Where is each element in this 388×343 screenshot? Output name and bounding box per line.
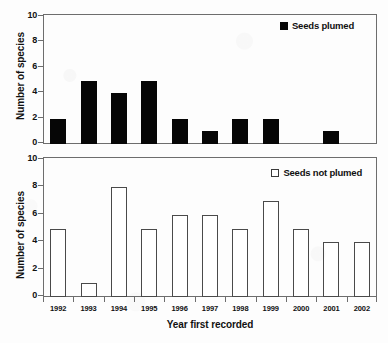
bar-cell-1996 — [164, 157, 194, 297]
chart-panel-seeds-plumed: Number of species 0246810 Seeds plumed — [0, 0, 388, 152]
x-tick-label-1996: 1996 — [171, 304, 187, 313]
bar-1998-value-2 — [232, 119, 248, 144]
y-tick-label-8: 8 — [32, 180, 37, 190]
x-tick-mark-11 — [376, 297, 377, 302]
bar-1996-value-2 — [172, 119, 188, 144]
bar-1998-value-5 — [232, 229, 248, 298]
x-tick-mark-0 — [43, 297, 44, 302]
x-tick-mark-5 — [195, 297, 196, 302]
y-tick-label-2: 2 — [32, 263, 37, 273]
bar-cell-2000 — [286, 14, 316, 144]
legend-seeds-plumed: Seeds plumed — [280, 20, 354, 31]
bar-cell-1993 — [73, 157, 103, 297]
bar-cell-1997 — [195, 157, 225, 297]
bar-cell-1998 — [225, 157, 255, 297]
y-tick-label-4: 4 — [32, 86, 37, 96]
bar-cell-1999 — [256, 157, 286, 297]
x-tick-label-1993: 1993 — [80, 304, 96, 313]
bar-1995-value-5 — [141, 81, 157, 145]
x-tick-label-1998: 1998 — [232, 304, 248, 313]
bar-1993-value-5 — [81, 81, 97, 145]
x-tick-mark-1 — [73, 297, 74, 302]
bar-cell-1999 — [256, 14, 286, 144]
y-tick-label-10: 10 — [27, 153, 37, 163]
bar-cell-1992 — [43, 14, 73, 144]
bar-cell-2000 — [286, 157, 316, 297]
bar-1992-value-5 — [50, 229, 66, 298]
legend-label-bottom: Seeds not plumed — [283, 167, 362, 178]
bar-1993-value-1 — [81, 283, 97, 297]
bar-1994-value-4 — [111, 93, 127, 144]
bar-group-bottom — [43, 157, 377, 297]
legend-swatch-filled-icon — [280, 22, 288, 30]
x-tick-mark-7 — [256, 297, 257, 302]
bar-cell-1997 — [195, 14, 225, 144]
y-tick-label-0: 0 — [32, 290, 37, 300]
bar-2001-value-1 — [323, 131, 339, 144]
bar-1992-value-2 — [50, 119, 66, 144]
legend-seeds-not-plumed: Seeds not plumed — [271, 167, 362, 178]
bar-cell-1994 — [104, 14, 134, 144]
y-tick-label-8: 8 — [32, 35, 37, 45]
bar-cell-1995 — [134, 14, 164, 144]
y-axis-title-top: Number of species — [15, 16, 26, 136]
bar-2001-value-4 — [323, 242, 339, 297]
x-axis-title: Year first recorded — [43, 319, 377, 330]
x-tick-mark-3 — [134, 297, 135, 302]
y-axis-top: Number of species 0246810 — [0, 0, 43, 152]
bar-1994-value-8 — [111, 187, 127, 297]
bar-1997-value-6 — [202, 215, 218, 297]
bar-1999-value-7 — [263, 201, 279, 297]
bar-cell-1992 — [43, 157, 73, 297]
bar-cell-2001 — [316, 14, 346, 144]
bar-cell-1995 — [134, 157, 164, 297]
bar-cell-1998 — [225, 14, 255, 144]
x-tick-mark-4 — [164, 297, 165, 302]
bar-cell-1996 — [164, 14, 194, 144]
x-tick-label-1992: 1992 — [50, 304, 66, 313]
y-tick-label-0: 0 — [32, 137, 37, 147]
x-tick-label-2001: 2001 — [323, 304, 339, 313]
bar-1999-value-2 — [263, 119, 279, 144]
y-tick-label-6: 6 — [32, 61, 37, 71]
bar-cell-2002 — [347, 157, 377, 297]
legend-swatch-hollow-icon — [271, 169, 279, 177]
bar-2000-value-5 — [293, 229, 309, 298]
x-tick-mark-8 — [286, 297, 287, 302]
x-tick-mark-6 — [225, 297, 226, 302]
bar-cell-2002 — [347, 14, 377, 144]
x-tick-label-2000: 2000 — [293, 304, 309, 313]
bar-cell-2001 — [316, 157, 346, 297]
y-tick-label-6: 6 — [32, 208, 37, 218]
x-tick-label-1994: 1994 — [111, 304, 127, 313]
y-axis-title-bottom: Number of species — [15, 175, 26, 295]
bar-1997-value-1 — [202, 131, 218, 144]
bar-cell-1994 — [104, 157, 134, 297]
y-tick-label-4: 4 — [32, 235, 37, 245]
x-tick-mark-2 — [104, 297, 105, 302]
y-axis-bottom: Number of species 0246810 — [0, 155, 43, 315]
x-tick-label-1999: 1999 — [263, 304, 279, 313]
bar-group-top — [43, 14, 377, 144]
chart-panel-seeds-not-plumed: Number of species 0246810 Seeds not plum… — [0, 155, 388, 315]
x-tick-label-1995: 1995 — [141, 304, 157, 313]
y-tick-label-2: 2 — [32, 112, 37, 122]
bar-2002-value-4 — [354, 242, 370, 297]
x-tick-label-2002: 2002 — [354, 304, 370, 313]
x-tick-mark-9 — [316, 297, 317, 302]
bar-1995-value-5 — [141, 229, 157, 298]
x-tick-label-1997: 1997 — [202, 304, 218, 313]
bar-cell-1993 — [73, 14, 103, 144]
y-tick-label-10: 10 — [27, 10, 37, 20]
bar-1996-value-6 — [172, 215, 188, 297]
x-axis: Year first recorded 19921993199419951996… — [43, 297, 377, 343]
x-tick-mark-10 — [347, 297, 348, 302]
legend-label-top: Seeds plumed — [292, 20, 354, 31]
figure-two-panel-bar-chart: Number of species 0246810 Seeds plumed N… — [0, 0, 388, 343]
